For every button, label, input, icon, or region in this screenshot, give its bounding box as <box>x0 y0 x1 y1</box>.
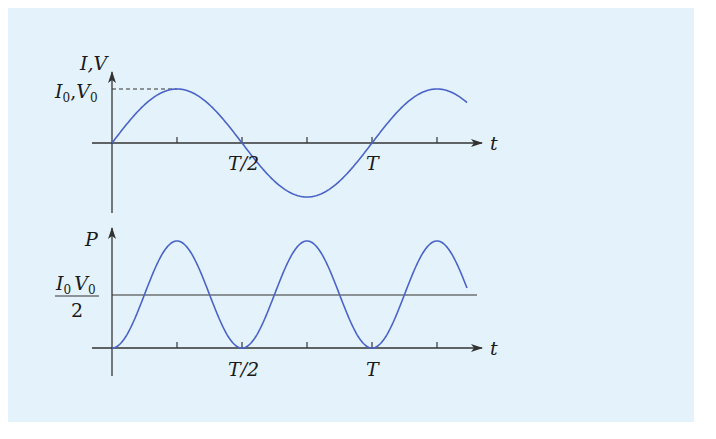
bottom-tick-full-label: T <box>366 358 380 380</box>
bottom-ticks <box>177 342 437 348</box>
mean-denominator: 2 <box>71 299 83 321</box>
peak-label: I0,V0 <box>54 80 98 105</box>
bottom-tick-half-label: T/2 <box>228 358 259 380</box>
top-tick-full-label: T <box>366 152 380 174</box>
top-ticks <box>177 137 437 143</box>
ac-power-diagram: I,V I0,V0 t T/2 T P I0V0 2 t T/2 T <box>0 0 716 439</box>
top-tick-half-label: T/2 <box>228 152 259 174</box>
bottom-graph: P I0V0 2 t T/2 T <box>55 228 498 380</box>
bottom-x-label: t <box>490 337 498 359</box>
top-x-label: t <box>490 132 498 154</box>
top-graph: I,V I0,V0 t T/2 T <box>54 52 498 213</box>
bottom-y-label: P <box>84 228 99 250</box>
top-y-label: I,V <box>79 52 110 74</box>
mean-numerator: I0V0 <box>55 272 96 297</box>
